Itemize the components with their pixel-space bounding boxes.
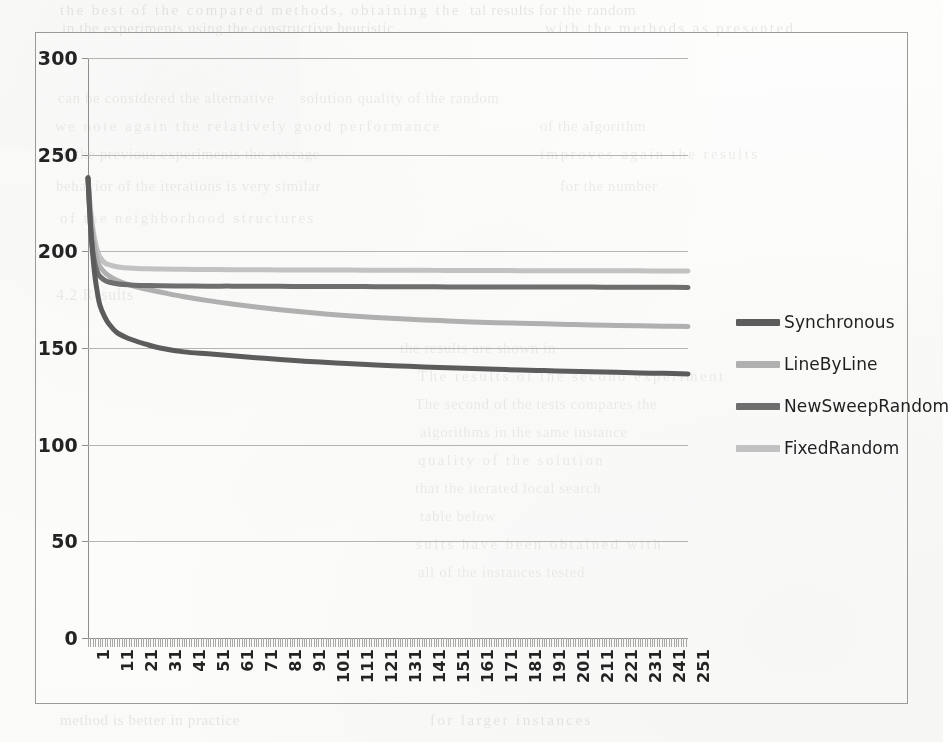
legend-label: Synchronous bbox=[784, 312, 895, 332]
x-minor-tick bbox=[330, 638, 331, 647]
x-minor-tick bbox=[352, 638, 353, 647]
x-minor-tick bbox=[239, 638, 240, 647]
y-axis-label-50: 50 bbox=[51, 530, 78, 552]
x-minor-tick bbox=[628, 638, 629, 647]
x-minor-tick bbox=[306, 638, 307, 647]
x-minor-tick bbox=[196, 638, 197, 647]
x-minor-tick bbox=[460, 638, 461, 647]
x-minor-tick bbox=[580, 638, 581, 647]
x-minor-tick bbox=[638, 638, 639, 647]
x-minor-tick bbox=[669, 638, 670, 647]
x-minor-tick bbox=[117, 638, 118, 647]
x-minor-tick bbox=[422, 638, 423, 647]
x-minor-tick bbox=[635, 638, 636, 647]
legend-item-synchronous[interactable]: Synchronous bbox=[736, 301, 916, 343]
x-minor-tick bbox=[599, 638, 600, 647]
x-minor-tick bbox=[592, 638, 593, 647]
series-line-fixedrandom bbox=[88, 178, 688, 271]
x-minor-tick bbox=[518, 638, 519, 647]
x-minor-tick bbox=[112, 638, 113, 647]
x-minor-tick bbox=[537, 638, 538, 647]
x-minor-tick bbox=[676, 638, 677, 647]
x-minor-tick bbox=[549, 638, 550, 647]
x-axis-label-201: 201 bbox=[574, 649, 593, 683]
x-minor-tick bbox=[162, 638, 163, 647]
x-minor-tick bbox=[534, 638, 535, 647]
x-minor-tick bbox=[640, 638, 641, 647]
x-minor-tick bbox=[335, 638, 336, 647]
bleed-through-line: method is better in practice bbox=[60, 712, 240, 729]
x-minor-tick bbox=[350, 638, 351, 647]
x-minor-tick bbox=[100, 638, 101, 647]
x-minor-tick bbox=[215, 638, 216, 647]
x-minor-tick bbox=[194, 638, 195, 647]
x-minor-tick bbox=[681, 638, 682, 647]
x-minor-tick bbox=[513, 638, 514, 647]
x-minor-tick bbox=[558, 638, 559, 647]
x-minor-tick bbox=[508, 638, 509, 647]
x-minor-tick bbox=[544, 638, 545, 647]
x-minor-tick bbox=[179, 638, 180, 647]
x-minor-tick bbox=[662, 638, 663, 647]
x-minor-tick bbox=[186, 638, 187, 647]
x-minor-tick bbox=[266, 638, 267, 647]
x-minor-tick bbox=[530, 638, 531, 647]
y-axis-label-150: 150 bbox=[38, 337, 78, 359]
x-minor-tick bbox=[498, 638, 499, 647]
legend-item-newsweeprandom[interactable]: NewSweepRandom bbox=[736, 385, 916, 427]
x-minor-tick bbox=[323, 638, 324, 647]
x-minor-tick bbox=[525, 638, 526, 647]
series-lines bbox=[88, 58, 688, 638]
x-axis-label-111: 111 bbox=[358, 649, 377, 683]
legend-label: FixedRandom bbox=[784, 438, 900, 458]
x-minor-tick bbox=[134, 638, 135, 647]
x-minor-tick bbox=[285, 638, 286, 647]
y-axis-label-200: 200 bbox=[38, 240, 78, 262]
x-minor-tick bbox=[436, 638, 437, 647]
x-axis-label-171: 171 bbox=[502, 649, 521, 683]
x-minor-tick bbox=[129, 638, 130, 647]
legend-item-linebyline[interactable]: LineByLine bbox=[736, 343, 916, 385]
x-minor-tick bbox=[124, 638, 125, 647]
x-axis-labels: 1112131415161718191101111121131141151161… bbox=[88, 649, 688, 709]
x-minor-tick bbox=[503, 638, 504, 647]
x-minor-tick bbox=[338, 638, 339, 647]
x-minor-tick bbox=[410, 638, 411, 647]
x-minor-tick bbox=[522, 638, 523, 647]
x-minor-tick bbox=[561, 638, 562, 647]
x-minor-tick bbox=[542, 638, 543, 647]
x-minor-tick bbox=[184, 638, 185, 647]
x-minor-tick bbox=[429, 638, 430, 647]
x-minor-tick bbox=[182, 638, 183, 647]
x-minor-tick bbox=[383, 638, 384, 647]
x-minor-tick bbox=[400, 638, 401, 647]
x-minor-tick bbox=[470, 638, 471, 647]
x-minor-tick bbox=[621, 638, 622, 647]
x-minor-tick bbox=[381, 638, 382, 647]
x-axis-label-41: 41 bbox=[190, 649, 209, 672]
x-minor-tick bbox=[602, 638, 603, 647]
legend-item-fixedrandom[interactable]: FixedRandom bbox=[736, 427, 916, 469]
legend-swatch-icon bbox=[736, 319, 780, 326]
x-minor-tick bbox=[489, 638, 490, 647]
x-minor-tick bbox=[256, 638, 257, 647]
x-minor-tick bbox=[326, 638, 327, 647]
x-minor-tick bbox=[515, 638, 516, 647]
x-minor-tick bbox=[90, 638, 91, 647]
x-minor-tick bbox=[618, 638, 619, 647]
x-minor-tick bbox=[434, 638, 435, 647]
x-minor-tick bbox=[191, 638, 192, 647]
x-minor-tick bbox=[393, 638, 394, 647]
x-minor-tick bbox=[210, 638, 211, 647]
x-minor-tick bbox=[299, 638, 300, 647]
x-minor-tick bbox=[366, 638, 367, 647]
x-minor-tick bbox=[107, 638, 108, 647]
x-minor-tick bbox=[630, 638, 631, 647]
x-axis-label-221: 221 bbox=[622, 649, 641, 683]
x-axis-label-151: 151 bbox=[454, 649, 473, 683]
x-minor-tick bbox=[244, 638, 245, 647]
x-minor-tick bbox=[114, 638, 115, 647]
x-minor-tick bbox=[666, 638, 667, 647]
x-minor-tick bbox=[345, 638, 346, 647]
x-minor-tick bbox=[254, 638, 255, 647]
